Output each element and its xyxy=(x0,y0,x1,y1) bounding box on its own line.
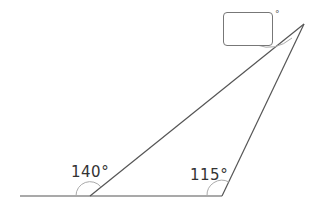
answer-box[interactable] xyxy=(223,12,273,46)
triangle-diagram xyxy=(0,0,327,216)
top-degree-symbol: ° xyxy=(275,9,280,19)
right-angle-label: 115° xyxy=(190,166,228,184)
left-angle-label: 140° xyxy=(71,163,109,181)
left-angle-arc xyxy=(76,182,101,196)
right-side xyxy=(222,24,304,196)
